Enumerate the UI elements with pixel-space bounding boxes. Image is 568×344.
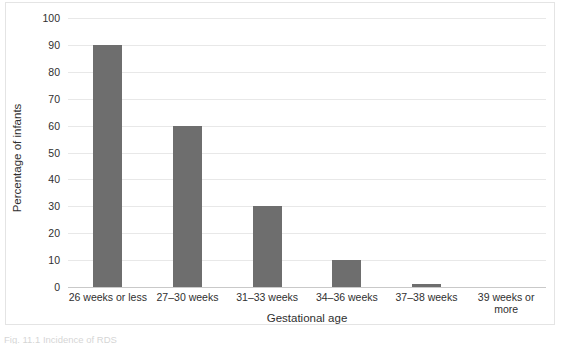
gridline [68, 287, 546, 288]
gridline [68, 179, 546, 180]
gridline [68, 260, 546, 261]
bar[interactable] [332, 260, 361, 287]
x-axis-tick-label: 27–30 weeks [148, 291, 228, 303]
y-axis-tick-label: 10 [48, 255, 60, 266]
y-axis-tick-label: 20 [48, 228, 60, 239]
bar[interactable] [173, 126, 202, 287]
y-axis-tick-label: 30 [48, 201, 60, 212]
x-axis-tick-label: 31–33 weeks [227, 291, 307, 303]
y-axis-tick-label: 70 [48, 93, 60, 104]
gridline [68, 18, 546, 19]
bar[interactable] [93, 45, 122, 287]
y-axis-tick-label: 50 [48, 147, 60, 158]
gridline [68, 126, 546, 127]
x-axis-tick-label: 37–38 weeks [387, 291, 467, 303]
gridline [68, 153, 546, 154]
gridline [68, 72, 546, 73]
y-axis-tick-label: 90 [48, 40, 60, 51]
figure-caption: Fig. 11.1 Incidence of RDS [4, 334, 117, 344]
gridline [68, 99, 546, 100]
x-axis-tick-label: 26 weeks or less [68, 291, 148, 303]
gridline [68, 233, 546, 234]
bar[interactable] [412, 284, 441, 287]
x-axis-title: Gestational age [68, 312, 546, 324]
y-axis-tick-label: 80 [48, 67, 60, 78]
y-axis-tick-label: 100 [42, 13, 60, 24]
y-axis-tick-label: 40 [48, 174, 60, 185]
gridline [68, 206, 546, 207]
y-axis-tick-label: 0 [54, 282, 60, 293]
bar[interactable] [253, 206, 282, 287]
x-axis-tick-label: 34–36 weeks [307, 291, 387, 303]
y-axis-tick-label: 60 [48, 120, 60, 131]
plot-area [68, 18, 546, 287]
y-axis-title: Percentage of infants [11, 88, 23, 228]
gridline [68, 45, 546, 46]
